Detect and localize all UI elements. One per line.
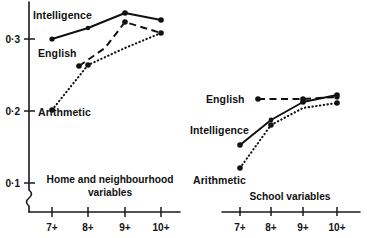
right-point-english-10 xyxy=(334,94,339,99)
right-xtick-label-9: 9+ xyxy=(297,222,309,233)
left-panel: 0·3 0·2 0·1 7+ 8+ 9+ 10+ Intelligence En… xyxy=(6,2,180,233)
right-point-arithmetic-7 xyxy=(237,165,243,171)
right-point-arithmetic-10 xyxy=(334,100,340,106)
right-caption: School variables xyxy=(250,191,331,202)
left-y-axis xyxy=(27,2,32,212)
left-xtick-label-9: 9+ xyxy=(119,222,131,233)
left-point-intelligence-10 xyxy=(158,17,164,23)
right-xtick-label-8: 8+ xyxy=(265,222,277,233)
right-point-english-9 xyxy=(300,96,306,102)
right-xtick-label-10: 10+ xyxy=(329,222,346,233)
left-ytick-label-0-3: 0·3 xyxy=(6,34,21,45)
correlation-line-chart: 0·3 0·2 0·1 7+ 8+ 9+ 10+ Intelligence En… xyxy=(0,0,367,238)
left-ytick-label-0-2: 0·2 xyxy=(6,106,21,117)
right-point-english-left xyxy=(255,96,261,102)
left-point-intelligence-9 xyxy=(122,10,128,16)
right-point-intelligence-7 xyxy=(237,142,243,148)
right-series-intelligence-line xyxy=(240,95,337,145)
right-xtick-label-7: 7+ xyxy=(234,222,246,233)
left-xtick-label-10: 10+ xyxy=(153,222,170,233)
figure-container: 0·3 0·2 0·1 7+ 8+ 9+ 10+ Intelligence En… xyxy=(0,0,367,238)
left-xtick-label-7: 7+ xyxy=(46,222,58,233)
left-point-intelligence-8 xyxy=(86,26,90,30)
right-point-arithmetic-8 xyxy=(268,122,274,128)
right-point-intelligence-8 xyxy=(269,118,274,123)
left-ytick-label-0-1: 0·1 xyxy=(6,178,21,189)
left-label-english: English xyxy=(38,47,77,59)
right-panel: 7+ 8+ 9+ 10+ English Intelligence Arithm… xyxy=(190,92,360,233)
left-caption-line2: variables xyxy=(88,187,133,198)
left-xtick-label-8: 8+ xyxy=(82,222,94,233)
left-point-arithmetic-8 xyxy=(85,62,91,68)
left-point-english-9 xyxy=(122,19,128,25)
left-label-intelligence: Intelligence xyxy=(33,9,92,21)
left-caption-line1: Home and neighbourhood xyxy=(47,174,174,185)
right-label-intelligence: Intelligence xyxy=(190,124,249,136)
left-label-arithmetic: Arithmetic xyxy=(38,106,91,118)
right-series-arithmetic-line xyxy=(240,103,337,168)
left-series-english-line xyxy=(79,22,161,66)
left-point-english-8 xyxy=(76,63,82,69)
right-label-arithmetic: Arithmetic xyxy=(193,174,246,186)
left-point-intelligence-7 xyxy=(49,36,54,41)
right-label-english: English xyxy=(206,93,245,105)
